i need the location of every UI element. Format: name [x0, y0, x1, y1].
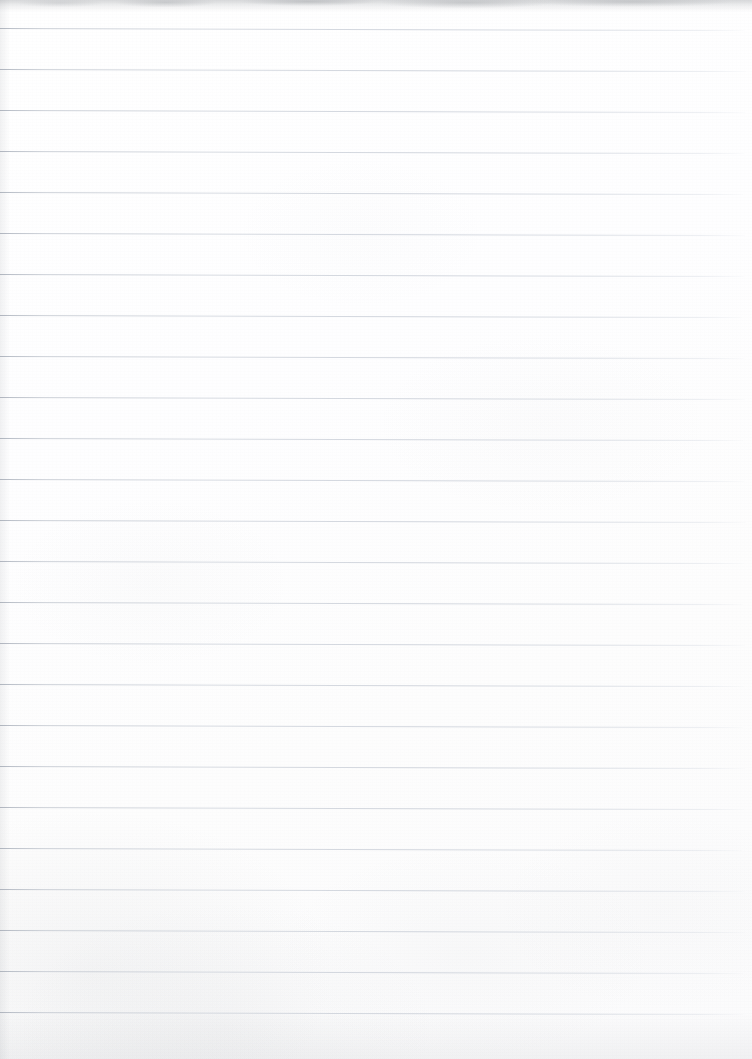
paper-background	[0, 0, 752, 1059]
scanned-notebook-page	[0, 0, 752, 1059]
